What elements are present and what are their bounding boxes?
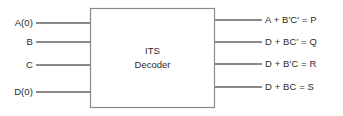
block-title-line-1: ITS bbox=[145, 46, 160, 57]
output-label-p: A + B′C′ = P bbox=[265, 15, 317, 25]
output-label-q: D + BC′ = Q bbox=[265, 37, 317, 47]
input-label-c: C bbox=[0, 60, 33, 70]
block-diagram: ITS Decoder A(0) B C D(0) A + B′C′ = P D… bbox=[0, 0, 343, 116]
decoder-block-label: ITS Decoder bbox=[90, 8, 215, 108]
output-label-r: D + B′C = R bbox=[265, 59, 316, 69]
input-label-d0: D(0) bbox=[0, 87, 33, 97]
output-label-s: D + BC = S bbox=[265, 82, 314, 92]
input-label-b: B bbox=[0, 37, 33, 47]
block-title-line-2: Decoder bbox=[135, 60, 171, 71]
input-label-a0: A(0) bbox=[0, 18, 33, 28]
